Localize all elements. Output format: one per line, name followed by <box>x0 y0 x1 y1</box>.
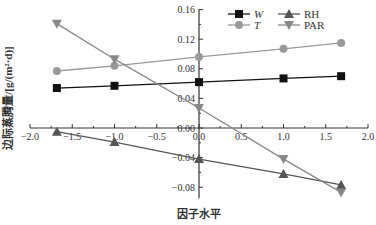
y-axis-label: 边际蒸腾量/[g/(m²·d)] <box>1 46 15 151</box>
svg-text:T: T <box>254 19 261 31</box>
x-tick-label: 1.0 <box>277 131 290 142</box>
x-tick-label: 2.0 <box>362 131 375 142</box>
marginal-transpiration-chart: −2.0−1.5−1.0−0.50.00.51.01.52.00.160.120… <box>0 0 376 225</box>
y-tick-label: 0.16 <box>178 4 196 15</box>
y-tick-label: 0.08 <box>178 63 196 74</box>
x-tick-label: −2.0 <box>21 131 39 142</box>
x-ticks: −2.0−1.5−1.0−0.50.00.51.01.52.0 <box>21 124 374 142</box>
x-tick-label: −1.5 <box>63 131 81 142</box>
y-tick-label: −0.08 <box>172 182 195 193</box>
legend: WTRHPAR <box>228 8 325 31</box>
chart-svg: −2.0−1.5−1.0−0.50.00.51.01.52.00.160.120… <box>0 0 376 225</box>
legend-item-t: T <box>228 19 261 31</box>
y-ticks: 0.160.120.080.040.00−0.04−0.08 <box>172 4 203 193</box>
legend-item-par: PAR <box>278 19 325 31</box>
x-tick-label: 1.5 <box>320 131 333 142</box>
y-tick-label: 0.04 <box>178 93 196 104</box>
x-tick-label: −0.5 <box>148 131 166 142</box>
y-tick-label: 0.12 <box>178 34 196 45</box>
x-axis-label: 因子水平 <box>177 207 221 220</box>
svg-text:PAR: PAR <box>304 19 325 31</box>
y-tick-label: 0.00 <box>178 123 196 134</box>
